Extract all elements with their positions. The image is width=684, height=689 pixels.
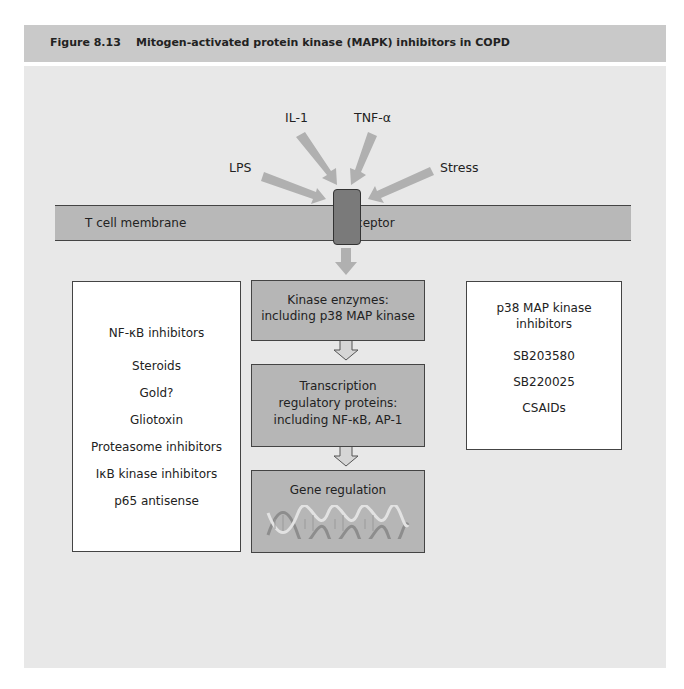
label-stress: Stress [440, 160, 478, 175]
transcription-proteins-box: Transcription regulatory proteins: inclu… [251, 364, 425, 447]
box-line: Kinase enzymes: [252, 293, 424, 307]
arrow-receptor-down-icon [335, 248, 357, 275]
dna-helix-icon [263, 505, 413, 539]
arrow-hollow-2-icon [334, 446, 358, 466]
p38-inhibitors-box: p38 MAP kinase inhibitors SB203580 SB220… [466, 281, 622, 450]
receptor [333, 189, 361, 245]
box-line: including NF-κB, AP-1 [252, 413, 424, 427]
list-item: SB203580 [467, 349, 621, 363]
kinase-enzymes-box: Kinase enzymes: including p38 MAP kinase [251, 280, 425, 341]
label-tnf: TNF-α [354, 110, 391, 125]
box-line: including p38 MAP kinase [252, 309, 424, 323]
list-item: Proteasome inhibitors [73, 440, 240, 454]
list-item: p65 antisense [73, 494, 240, 508]
list-item: Gold? [73, 386, 240, 400]
label-lps: LPS [229, 160, 251, 175]
arrow-tnf-icon [350, 132, 377, 185]
membrane-label: T cell membrane [85, 216, 186, 230]
nfkb-inhibitors-box: NF-κB inhibitors Steroids Gold? Gliotoxi… [72, 281, 241, 552]
list-item: Gliotoxin [73, 413, 240, 427]
label-il1: IL-1 [285, 110, 308, 125]
gene-regulation-box: Gene regulation [251, 470, 425, 553]
list-item: SB220025 [467, 375, 621, 389]
list-item: Steroids [73, 359, 240, 373]
box-line: Transcription [252, 379, 424, 393]
arrow-lps-icon [261, 172, 326, 204]
list-item: CSAIDs [467, 401, 621, 415]
p38-inhibitors-title: inhibitors [467, 317, 621, 331]
p38-inhibitors-title: p38 MAP kinase [467, 301, 621, 315]
box-line: regulatory proteins: [252, 396, 424, 410]
box-line: Gene regulation [252, 483, 424, 497]
arrow-hollow-1-icon [334, 340, 358, 360]
arrow-stress-icon [368, 167, 434, 203]
list-item: IκB kinase inhibitors [73, 467, 240, 481]
nfkb-inhibitors-title: NF-κB inhibitors [73, 326, 240, 340]
arrow-il1-icon [296, 132, 337, 185]
